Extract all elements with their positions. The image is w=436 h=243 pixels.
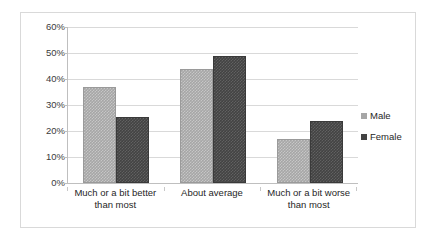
chart-container: 0%10%20%30%40%50%60% Much or a bit bette…	[20, 12, 416, 228]
gridline	[68, 183, 358, 184]
x-axis-category-line: than most	[261, 199, 356, 211]
bar-group	[68, 27, 165, 183]
x-axis-category-label: Much or a bit betterthan most	[67, 187, 164, 221]
y-axis-tick-label: 60%	[46, 22, 65, 32]
bar-group	[165, 27, 262, 183]
bar-female[interactable]	[310, 121, 343, 183]
y-axis-tick-label: 50%	[46, 48, 65, 58]
y-axis-tick-label: 30%	[46, 100, 65, 110]
x-axis-tickmark	[356, 187, 357, 191]
y-axis-tick-label: 0%	[51, 178, 65, 188]
y-axis-tick-label: 20%	[46, 126, 65, 136]
legend-item-label: Male	[370, 111, 391, 121]
x-axis-tickmark	[67, 187, 68, 191]
square-marker-dark-icon	[361, 134, 367, 140]
bar-female[interactable]	[213, 56, 246, 183]
legend-item-male[interactable]: Male	[361, 111, 415, 121]
chart-legend: MaleFemale	[361, 111, 415, 153]
bar-male[interactable]	[277, 139, 310, 183]
x-axis-tickmark	[164, 187, 165, 191]
x-axis-tickmark	[260, 187, 261, 191]
legend-item-female[interactable]: Female	[361, 132, 415, 142]
bar-male[interactable]	[180, 69, 213, 183]
plot-area	[67, 27, 358, 184]
plot-wrapper: 0%10%20%30%40%50%60% Much or a bit bette…	[21, 13, 417, 229]
bar-group	[261, 27, 358, 183]
x-axis-category-line: Much or a bit better	[68, 187, 163, 199]
y-axis-tickmark	[64, 183, 68, 184]
bar-male[interactable]	[83, 87, 116, 183]
y-axis: 0%10%20%30%40%50%60%	[25, 27, 65, 183]
x-axis-category-line: than most	[68, 199, 163, 211]
y-axis-tick-label: 40%	[46, 74, 65, 84]
x-axis-category-label: About average	[164, 187, 261, 221]
square-marker-light-icon	[361, 113, 367, 119]
legend-item-label: Female	[370, 132, 402, 142]
y-axis-tick-label: 10%	[46, 152, 65, 162]
x-axis: Much or a bit betterthan mostAbout avera…	[67, 187, 357, 221]
x-axis-category-line: Much or a bit worse	[261, 187, 356, 199]
x-axis-category-label: Much or a bit worsethan most	[260, 187, 357, 221]
bar-series-layer	[68, 27, 358, 183]
x-axis-category-line: About average	[165, 187, 260, 199]
bar-female[interactable]	[116, 117, 149, 183]
